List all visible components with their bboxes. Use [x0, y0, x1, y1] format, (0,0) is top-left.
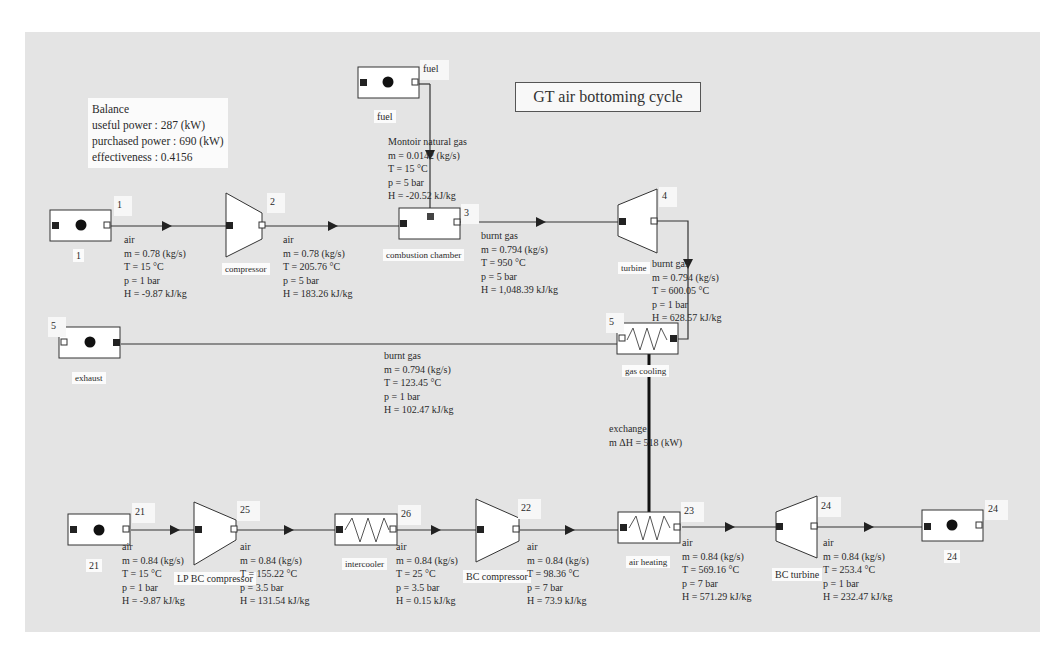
air-heating-label: air heating	[626, 556, 670, 568]
sink-24-box[interactable]	[922, 510, 983, 541]
balance-panel: Balance useful power : 287 (kW) purchase…	[88, 98, 228, 168]
lp-bc-compressor-shape[interactable]	[194, 502, 237, 565]
stream-5-properties: burnt gasm = 0.794 (kg/s)T = 123.45 °Cp …	[384, 349, 454, 417]
exhaust-label: exhaust	[72, 372, 106, 384]
intercooler-label: intercooler	[342, 558, 387, 570]
stream-22-properties: airm = 0.84 (kg/s)T = 98.36 °Cp = 7 barH…	[527, 540, 589, 608]
source-1-box[interactable]	[50, 210, 111, 241]
exchange-label: exchangem ΔH = 518 (kW)	[609, 422, 682, 449]
node-number-22: 22	[518, 499, 541, 519]
stream-21-properties: airm = 0.84 (kg/s)T = 15 °Cp = 1 barH = …	[122, 540, 185, 608]
stream-fuel-properties: Montoir natural gasm = 0.0142 (kg/s)T = …	[388, 135, 467, 203]
combustion-chamber-box[interactable]	[399, 208, 460, 239]
useful-power: useful power : 287 (kW)	[92, 117, 224, 133]
combustion-chamber-label: combustion chamber	[383, 249, 464, 261]
stream-25-properties: airm = 0.84 (kg/s)T = 155.22 °Cp = 3.5 b…	[240, 540, 310, 608]
node-number-23: 23	[681, 502, 704, 522]
node-number-25: 25	[237, 501, 260, 521]
intercooler-box[interactable]	[335, 514, 397, 545]
bc-compressor-shape[interactable]	[476, 499, 519, 562]
node-number-2: 2	[267, 193, 285, 213]
stream-23-properties: airm = 0.84 (kg/s)T = 569.16 °Cp = 7 bar…	[682, 536, 752, 604]
gas-cooling-label: gas cooling	[622, 365, 669, 377]
gas-cooling-box[interactable]	[617, 323, 678, 354]
purchased-power: purchased power : 690 (kW)	[92, 133, 224, 149]
source-21-box[interactable]	[68, 514, 130, 545]
bc-compressor-label: BC compressor	[463, 570, 531, 583]
stream-2-properties: airm = 0.78 (kg/s)T = 205.76 °Cp = 5 bar…	[283, 233, 353, 301]
stream-4-properties: burnt gasm = 0.794 (kg/s)T = 600.05 °Cp …	[652, 257, 722, 325]
node-number-26: 26	[398, 505, 421, 525]
turbine-shape[interactable]	[618, 189, 657, 253]
air-heating-box[interactable]	[618, 512, 680, 543]
exhaust-box[interactable]	[59, 327, 120, 358]
compressor-shape[interactable]	[226, 193, 265, 257]
balance-heading: Balance	[92, 101, 224, 117]
fuel-label: fuel	[374, 110, 396, 123]
turbine-label: turbine	[618, 262, 650, 274]
source-21-label: 21	[86, 559, 102, 572]
node-number-3: 3	[461, 204, 479, 224]
stream-1-properties: airm = 0.78 (kg/s)T = 15 °Cp = 1 barH = …	[124, 233, 187, 301]
source-1-label: 1	[73, 249, 84, 262]
stream-26-properties: airm = 0.84 (kg/s)T = 25 °Cp = 3.5 barH …	[396, 540, 458, 608]
effectiveness: effectiveness : 0.4156	[92, 149, 224, 165]
stream-3-properties: burnt gasm = 0.794 (kg/s)T = 950 °Cp = 5…	[481, 229, 558, 297]
node-number-4: 4	[659, 187, 677, 207]
fuel-source-box[interactable]	[358, 67, 419, 98]
node-number-5-gc: 5	[606, 313, 624, 333]
node-number-fuel: fuel	[420, 60, 449, 80]
stream-24-properties: airm = 0.84 (kg/s)T = 253.4 °Cp = 1 barH…	[823, 536, 893, 604]
bc-turbine-shape[interactable]	[776, 496, 817, 558]
node-number-5-exhaust: 5	[48, 317, 66, 337]
node-number-21: 21	[132, 503, 155, 523]
bc-turbine-label: BC turbine	[772, 568, 822, 581]
node-number-24-sink: 24	[985, 500, 1008, 520]
sink-24-label: 24	[944, 550, 960, 563]
node-number-24-turbine: 24	[818, 497, 841, 517]
diagram-title: GT air bottoming cycle	[515, 82, 701, 112]
node-number-1: 1	[114, 196, 132, 216]
compressor-label: compressor	[222, 263, 270, 275]
